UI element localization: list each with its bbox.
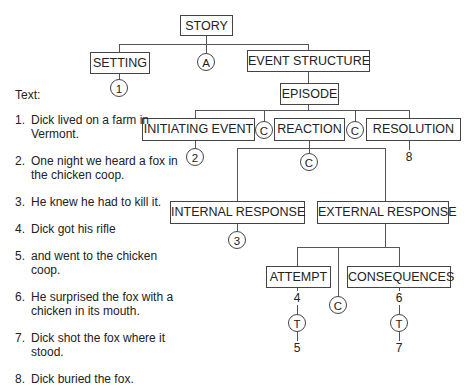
marker-episode-c2: C	[346, 121, 364, 139]
connector	[309, 141, 310, 153]
connector	[409, 110, 410, 118]
text-item: 7.Dick shot the fox where it stood.	[15, 331, 181, 359]
text-item: 3.He knew he had to kill it.	[15, 195, 181, 209]
connector	[297, 247, 399, 248]
text-item: 6.He surprised the fox with a chicken in…	[15, 290, 181, 318]
node-external-response: EXTERNAL RESPONSE	[317, 201, 449, 224]
marker-story-and: A	[197, 53, 215, 71]
connector	[385, 224, 386, 247]
node-reaction: REACTION	[274, 118, 345, 141]
connector	[195, 110, 409, 111]
connector	[237, 148, 238, 201]
marker-attempt-t: T	[288, 314, 306, 332]
connector	[195, 110, 196, 118]
node-episode: EPISODE	[280, 83, 339, 105]
connector	[308, 72, 309, 83]
connector	[297, 305, 298, 314]
node-resolution: RESOLUTION	[366, 118, 461, 141]
text-item: 1.Dick lived on a farm in Vermont.	[15, 113, 181, 141]
marker-episode-c1: C	[255, 121, 273, 139]
node-event-structure: EVENT STRUCTURE	[247, 50, 370, 72]
connector	[409, 141, 410, 150]
node-setting: SETTING	[90, 52, 150, 74]
connector	[338, 247, 339, 297]
marker-resolution-ref: 8	[402, 150, 416, 164]
marker-external-c: C	[329, 296, 347, 314]
connector	[119, 44, 308, 45]
marker-reaction-c: C	[300, 153, 318, 171]
marker-consequences-top: 6	[392, 291, 406, 305]
text-item: 2.One night we heard a fox in the chicke…	[15, 154, 181, 182]
marker-attempt-top: 4	[290, 291, 304, 305]
connector	[399, 332, 400, 341]
marker-initiating-ref: 2	[186, 148, 204, 166]
connector	[297, 247, 298, 266]
marker-consequences-bottom: 7	[392, 341, 406, 355]
connector	[385, 148, 386, 201]
connector	[399, 247, 400, 266]
marker-consequences-t: T	[390, 314, 408, 332]
node-internal-response: INTERNAL RESPONSE	[170, 201, 305, 224]
connector	[119, 44, 120, 52]
connector	[237, 148, 385, 149]
node-attempt: ATTEMPT	[266, 266, 331, 288]
text-item: 4.Dick got his rifle	[15, 222, 181, 236]
marker-attempt-bottom: 5	[290, 341, 304, 355]
story-text-panel: Text: 1.Dick lived on a farm in Vermont.…	[15, 88, 181, 387]
node-story: STORY	[180, 15, 233, 36]
connector	[399, 305, 400, 314]
text-item: 8.Dick buried the fox.	[15, 372, 181, 386]
text-item: 5.and went to the chicken coop.	[15, 249, 181, 277]
marker-internal-ref: 3	[228, 231, 246, 249]
node-consequences: CONSEQUENCES	[347, 266, 451, 288]
connector	[206, 35, 207, 53]
text-heading: Text:	[15, 88, 181, 102]
connector	[297, 332, 298, 341]
